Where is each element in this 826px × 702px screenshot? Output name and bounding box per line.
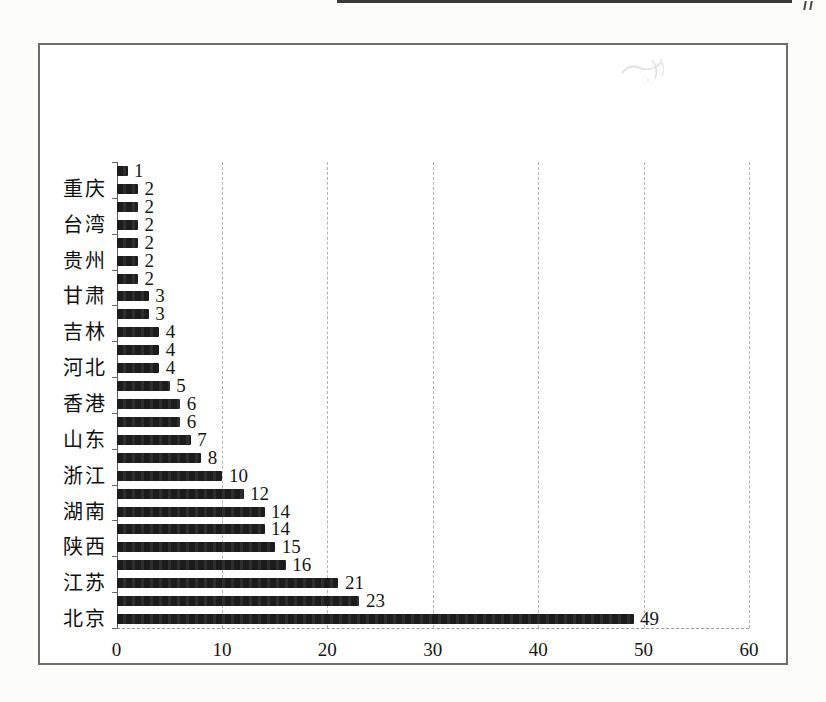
category-label: 贵州 bbox=[0, 249, 107, 273]
category-label: 山东 bbox=[0, 428, 107, 452]
bar-value-label: 4 bbox=[166, 358, 176, 378]
category-label: 香港 bbox=[0, 392, 107, 416]
bar-value-label: 2 bbox=[145, 269, 155, 289]
bar bbox=[117, 453, 201, 463]
y-axis-tick bbox=[112, 377, 117, 378]
bar-value-label: 21 bbox=[345, 573, 364, 593]
bar-江苏 bbox=[117, 578, 338, 588]
y-axis-tick bbox=[112, 556, 117, 557]
x-tick-label: 20 bbox=[305, 639, 349, 661]
page-corner-mark bbox=[802, 1, 820, 13]
y-axis-tick bbox=[112, 270, 117, 271]
bar-value-label: 49 bbox=[640, 609, 659, 629]
bar bbox=[117, 524, 265, 534]
bar bbox=[117, 309, 149, 319]
y-axis-tick bbox=[112, 449, 117, 450]
y-axis-tick bbox=[112, 485, 117, 486]
y-axis-line bbox=[117, 162, 118, 629]
bar bbox=[117, 345, 159, 355]
bar-陕西 bbox=[117, 542, 275, 552]
bar-value-label: 16 bbox=[292, 555, 311, 575]
bar-河北 bbox=[117, 363, 159, 373]
bar-浙江 bbox=[117, 471, 222, 481]
bar bbox=[117, 166, 128, 176]
category-label: 湖南 bbox=[0, 500, 107, 524]
page-top-rule bbox=[337, 0, 792, 3]
bar bbox=[117, 489, 244, 499]
category-label: 甘肃 bbox=[0, 284, 107, 308]
y-axis-tick bbox=[112, 413, 117, 414]
y-axis-tick bbox=[112, 341, 117, 342]
bar-吉林 bbox=[117, 327, 159, 337]
bar-value-label: 7 bbox=[197, 430, 207, 450]
category-label: 陕西 bbox=[0, 535, 107, 559]
category-label: 河北 bbox=[0, 356, 107, 380]
y-axis-tick bbox=[112, 520, 117, 521]
x-tick-label: 40 bbox=[516, 639, 560, 661]
bar-香港 bbox=[117, 399, 180, 409]
bar-重庆 bbox=[117, 184, 138, 194]
category-label: 吉林 bbox=[0, 320, 107, 344]
gridline bbox=[222, 162, 223, 628]
gridline bbox=[327, 162, 328, 628]
bar-value-label: 10 bbox=[229, 466, 248, 486]
x-tick-label: 0 bbox=[95, 639, 139, 661]
y-axis-tick bbox=[112, 305, 117, 306]
y-axis-tick bbox=[112, 162, 117, 163]
corner-mark-stroke bbox=[809, 1, 813, 10]
bar bbox=[117, 238, 138, 248]
y-axis-tick bbox=[112, 198, 117, 199]
corner-mark-stroke bbox=[803, 1, 807, 10]
x-tick-label: 10 bbox=[200, 639, 244, 661]
bar-台湾 bbox=[117, 220, 138, 230]
bar-value-label: 8 bbox=[208, 448, 218, 468]
bar bbox=[117, 560, 286, 570]
bar bbox=[117, 274, 138, 284]
x-tick-label: 50 bbox=[622, 639, 666, 661]
bar bbox=[117, 417, 180, 427]
bar-山东 bbox=[117, 435, 191, 445]
bar-北京 bbox=[117, 614, 634, 624]
category-label: 重庆 bbox=[0, 177, 107, 201]
y-axis-tick bbox=[112, 234, 117, 235]
bar bbox=[117, 596, 359, 606]
scan-smudge-artifact bbox=[618, 53, 678, 87]
gridline bbox=[538, 162, 539, 628]
category-label: 北京 bbox=[0, 607, 107, 631]
bar bbox=[117, 381, 170, 391]
bar-甘肃 bbox=[117, 291, 149, 301]
y-axis-tick bbox=[112, 592, 117, 593]
y-axis-tick bbox=[112, 628, 117, 629]
gridline bbox=[433, 162, 434, 628]
scanned-page: 12重庆22台湾22贵州23甘肃34吉林44河北56香港67山东810浙江121… bbox=[0, 0, 826, 702]
bar-value-label: 5 bbox=[176, 376, 186, 396]
bar-贵州 bbox=[117, 256, 138, 266]
category-label: 江苏 bbox=[0, 571, 107, 595]
chart-frame: 12重庆22台湾22贵州23甘肃34吉林44河北56香港67山东810浙江121… bbox=[38, 43, 788, 665]
bar-value-label: 6 bbox=[187, 412, 197, 432]
bar bbox=[117, 202, 138, 212]
x-tick-label: 60 bbox=[727, 639, 771, 661]
bar-value-label: 12 bbox=[250, 484, 269, 504]
gridline bbox=[644, 162, 645, 628]
bar-湖南 bbox=[117, 507, 265, 517]
bar-value-label: 1 bbox=[134, 161, 144, 181]
bar-value-label: 3 bbox=[155, 304, 165, 324]
bar-value-label: 23 bbox=[366, 591, 385, 611]
gridline bbox=[749, 162, 750, 628]
category-label: 浙江 bbox=[0, 464, 107, 488]
category-label: 台湾 bbox=[0, 213, 107, 237]
x-tick-label: 30 bbox=[411, 639, 455, 661]
